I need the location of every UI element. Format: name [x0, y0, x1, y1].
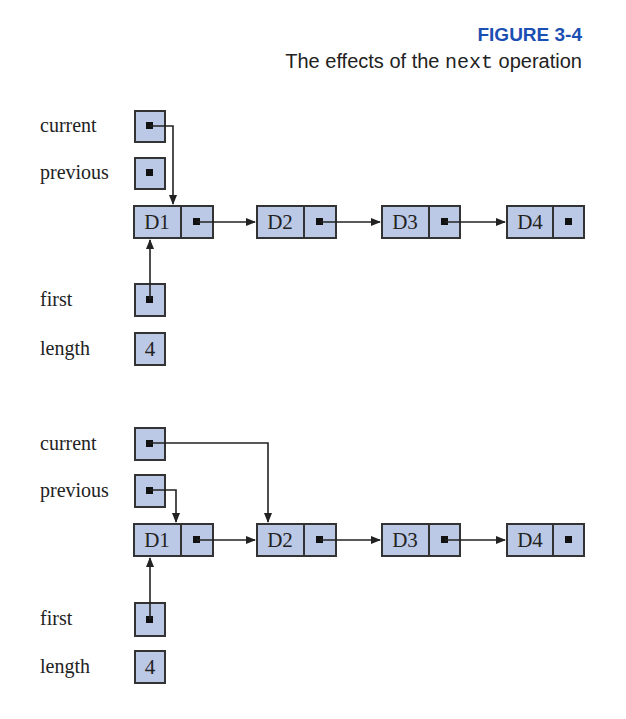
diagram-after: D1 D2 D3 D4 4: [134, 428, 584, 683]
svg-text:D2: D2: [267, 528, 293, 552]
svg-text:D3: D3: [392, 528, 418, 552]
svg-text:D4: D4: [517, 210, 543, 234]
svg-text:D4: D4: [517, 528, 543, 552]
svg-text:D1: D1: [144, 528, 170, 552]
null-pointer-dot-icon: [146, 169, 153, 176]
svg-text:D2: D2: [267, 210, 293, 234]
linked-list-diagram: D1 D2 D3 D4 4: [0, 0, 626, 719]
svg-text:D3: D3: [392, 210, 418, 234]
current-arrow: [150, 443, 268, 522]
length-value: 4: [145, 655, 156, 679]
svg-text:D1: D1: [144, 210, 170, 234]
length-value: 4: [145, 337, 156, 361]
node-d4: D4: [507, 524, 584, 556]
diagram-before: D1 D2 D3 D4 4: [134, 111, 584, 365]
node-d4: D4: [507, 206, 584, 238]
